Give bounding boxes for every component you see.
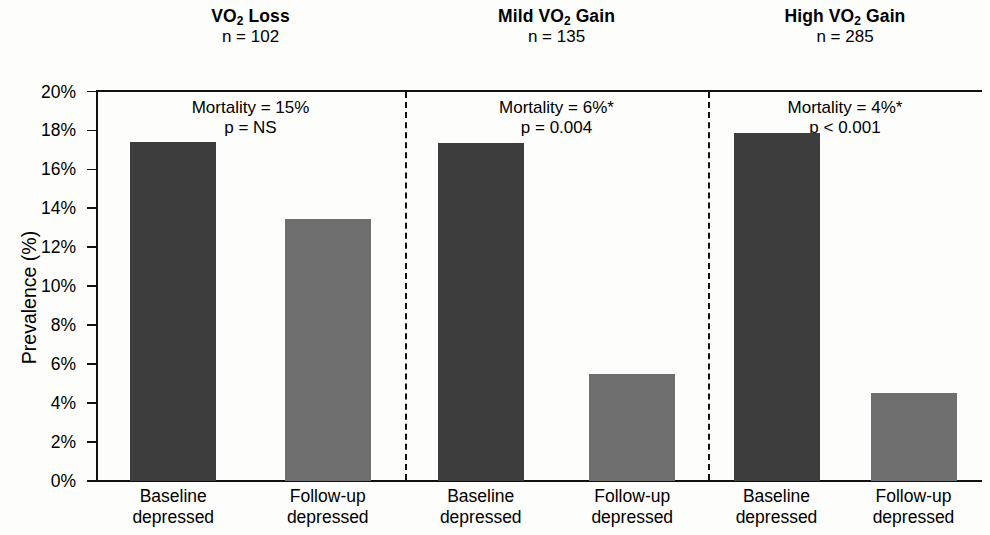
y-tick-18% [87, 130, 96, 132]
group-annotation-1: Mortality = 6%* p = 0.004 [405, 98, 708, 139]
group-title-0: VO2 Loss [96, 6, 405, 26]
group-separator-2 [708, 92, 710, 480]
y-tick-16% [87, 169, 96, 171]
bar-g0-followup [285, 219, 371, 481]
group-header-2: High VO2 Gain n = 285 [708, 6, 982, 47]
group-title-suffix-2: Gain [861, 6, 905, 26]
x-tick-label-line2: depressed [824, 507, 990, 528]
y-tick-label-0%: 0% [14, 471, 76, 492]
x-tick-label-line2: depressed [83, 507, 263, 528]
group-title-1: Mild VO2 Gain [405, 6, 708, 26]
mortality-label-1: Mortality = 6%* [499, 98, 614, 117]
y-tick-14% [87, 207, 96, 209]
group-title-prefix-1: Mild VO [498, 6, 564, 26]
plot-top-rule [96, 90, 982, 92]
bar-g2-followup [871, 393, 957, 481]
group-annotation-0: Mortality = 15% p = NS [96, 98, 405, 139]
bar-g0-baseline [130, 142, 216, 481]
y-tick-0% [87, 480, 96, 482]
x-tick-label-line1: Baseline [83, 486, 263, 507]
y-tick-4% [87, 402, 96, 404]
group-n-0: n = 102 [96, 27, 405, 47]
group-title-prefix-2: High VO [785, 6, 855, 26]
x-tick-label-g0-baseline: Baselinedepressed [83, 486, 263, 527]
x-axis-line [96, 480, 982, 482]
group-title-sub-1: 2 [564, 14, 571, 28]
p-value-label-0: p = NS [96, 118, 405, 138]
group-header-0: VO2 Loss n = 102 [96, 6, 405, 47]
y-tick-2% [87, 441, 96, 443]
group-title-2: High VO2 Gain [708, 6, 982, 26]
y-tick-6% [87, 363, 96, 365]
group-header-1: Mild VO2 Gain n = 135 [405, 6, 708, 47]
mortality-label-0: Mortality = 15% [192, 98, 310, 117]
group-separator-1 [405, 92, 407, 480]
y-tick-8% [87, 324, 96, 326]
bar-g1-followup [589, 374, 675, 481]
y-tick-10% [87, 285, 96, 287]
group-title-suffix-1: Gain [571, 6, 615, 26]
p-value-label-1: p = 0.004 [405, 118, 708, 138]
y-tick-label-2%: 2% [14, 432, 76, 453]
bar-g1-baseline [438, 143, 524, 481]
group-title-prefix-0: VO [211, 6, 237, 26]
y-tick-label-20%: 20% [14, 81, 76, 102]
x-tick-label-g2-followup: Follow-updepressed [824, 486, 990, 527]
bar-g2-baseline [734, 133, 820, 481]
y-tick-12% [87, 246, 96, 248]
y-axis-line [96, 91, 98, 482]
y-axis-title: Prevalence (%) [18, 183, 41, 413]
mortality-label-2: Mortality = 4%* [788, 98, 903, 117]
group-title-sub-0: 2 [237, 14, 244, 28]
group-title-sub-2: 2 [854, 14, 861, 28]
bar-chart-figure: VO2 Loss n = 102 Mild VO2 Gain n = 135 H… [0, 0, 990, 535]
y-tick-20% [87, 91, 96, 93]
group-n-1: n = 135 [405, 27, 708, 47]
group-title-suffix-0: Loss [244, 6, 290, 26]
group-n-2: n = 285 [708, 27, 982, 47]
y-tick-label-16%: 16% [14, 159, 76, 180]
x-tick-label-line1: Follow-up [824, 486, 990, 507]
y-tick-label-18%: 18% [14, 120, 76, 141]
